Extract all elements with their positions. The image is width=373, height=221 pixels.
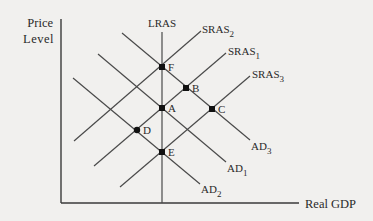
point-d-label: D xyxy=(143,124,151,136)
equilibrium-points: FBACDE xyxy=(134,61,226,158)
point-a-label: A xyxy=(168,102,176,114)
y-axis-label-level: Level xyxy=(23,32,54,46)
point-c-marker xyxy=(209,106,215,112)
sras-2-label: SRAS2 xyxy=(202,23,234,39)
point-b-label: B xyxy=(192,82,199,94)
ad-1-label: AD1 xyxy=(227,162,247,178)
y-axis-label-price: Price xyxy=(27,16,53,30)
point-f-marker xyxy=(159,64,165,70)
point-c-label: C xyxy=(218,103,225,115)
ad-2-label: AD2 xyxy=(201,183,221,199)
point-a-marker xyxy=(159,105,165,111)
sras-3-label: SRAS3 xyxy=(252,68,285,84)
ad-as-diagram: Price Level Real GDP LRAS SRAS2SRAS1SRAS… xyxy=(0,0,373,221)
point-f-label: F xyxy=(168,61,174,73)
lras-label: LRAS xyxy=(148,17,176,29)
x-axis-label: Real GDP xyxy=(305,197,356,211)
point-b-marker xyxy=(183,85,189,91)
point-e-marker xyxy=(159,149,165,155)
sras-1-label: SRAS1 xyxy=(228,45,260,61)
point-e-label: E xyxy=(168,146,175,158)
ad-3-label: AD3 xyxy=(251,140,272,156)
point-d-marker xyxy=(134,127,140,133)
